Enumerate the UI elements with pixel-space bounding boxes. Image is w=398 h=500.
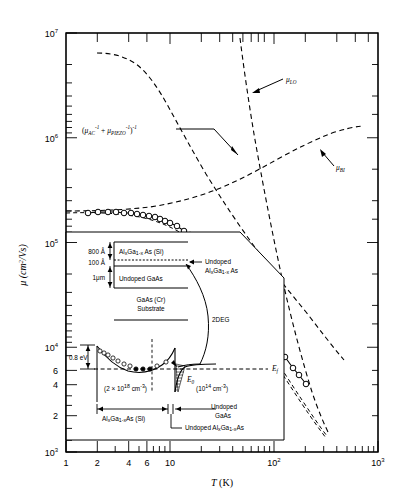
y-tick-1e3: 103 — [45, 447, 59, 458]
mobility-vs-temperature-chart: 107 106 105 104 6 4 2 103 μ (cm2/Vs) — [0, 0, 398, 500]
x-tick-4: 4 — [126, 458, 131, 468]
region-right-line2: GaAs — [215, 412, 231, 419]
x-tick-100: 102 — [267, 457, 281, 468]
y-axis-tick-labels: 107 106 105 104 6 4 2 103 — [45, 28, 59, 458]
x-axis-tick-labels: 1 2 4 6 10 102 103 — [63, 457, 385, 468]
twodeg-label: 2DEG — [212, 316, 229, 323]
y-tick-2000: 2 — [53, 411, 58, 421]
layer-thickness-800a: 800 Å — [88, 247, 105, 255]
x-tick-1: 1 — [63, 458, 68, 468]
y-tick-4000: 4 — [53, 380, 58, 390]
region-right-line1: Undoped — [211, 403, 237, 411]
y-axis-title: μ (cm2/Vs) — [17, 244, 29, 287]
y-tick-6000: 6 — [53, 366, 58, 376]
x-tick-6: 6 — [144, 458, 149, 468]
layer-substrate-line1: GaAs (Cr) — [137, 296, 166, 304]
layer-substrate-line2: Substrate — [137, 305, 165, 312]
x-tick-10: 10 — [165, 458, 175, 468]
figure-root: 107 106 105 104 6 4 2 103 μ (cm2/Vs) — [0, 0, 398, 500]
layer-material-undoped-gaas: Undoped GaAs — [119, 275, 163, 283]
y-tick-1e7: 107 — [45, 28, 59, 39]
x-tick-2: 2 — [95, 458, 100, 468]
y-tick-1e6: 106 — [45, 133, 59, 144]
x-axis-title: T (K) — [211, 477, 233, 489]
spacer-callout-line1: Undoped — [205, 258, 231, 266]
y-tick-1e4: 104 — [45, 342, 59, 353]
filled-electron-states — [134, 367, 152, 371]
layer-thickness-100a: 100 Å — [88, 258, 105, 266]
x-tick-1000: 103 — [371, 457, 385, 468]
y-tick-1e5: 105 — [45, 238, 59, 249]
layer-thickness-1um: 1μm — [92, 274, 105, 282]
barrier-height-label: 0.8 eV — [69, 354, 88, 361]
